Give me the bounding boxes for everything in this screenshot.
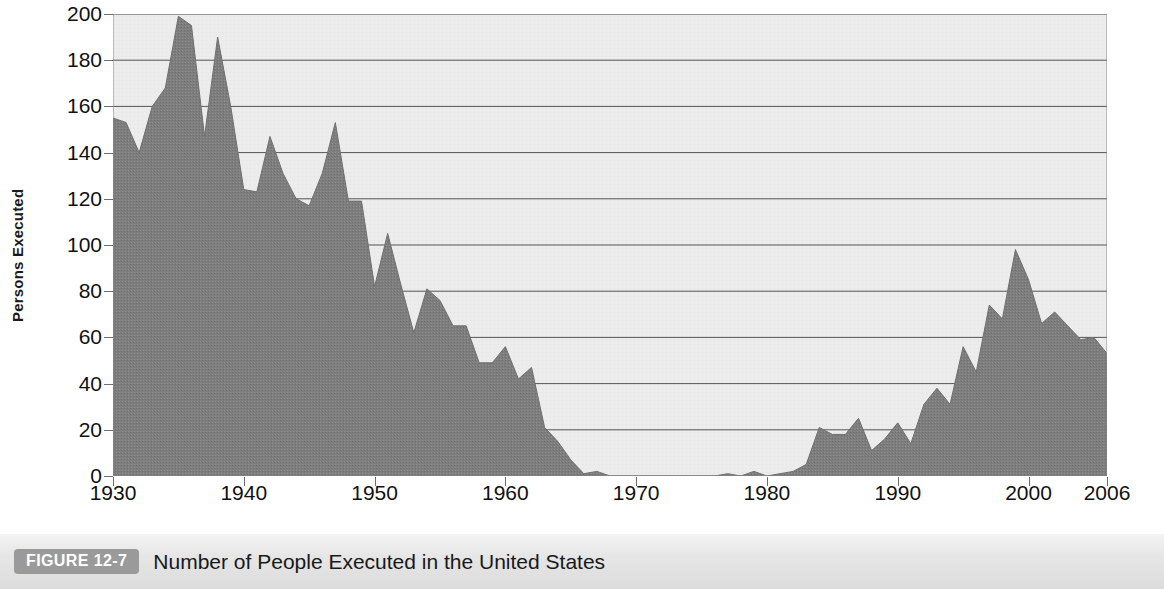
x-tick-mark: [113, 477, 114, 486]
figure-caption-bar: FIGURE 12-7 Number of People Executed in…: [0, 534, 1164, 589]
x-tick-mark: [1029, 477, 1030, 486]
x-tick-mark: [244, 477, 245, 486]
x-tick-label: 2006: [1047, 482, 1164, 503]
chart-area: Persons Executed 02040608010012014016018…: [0, 0, 1164, 515]
figure-12-7: Persons Executed 02040608010012014016018…: [0, 0, 1164, 589]
x-tick-mark: [898, 477, 899, 486]
x-tick-mark: [767, 477, 768, 486]
x-tick-mark: [1107, 477, 1108, 486]
x-tick-mark: [636, 477, 637, 486]
figure-number-badge: FIGURE 12-7: [14, 549, 139, 574]
x-tick-mark: [375, 477, 376, 486]
x-tick-mark: [505, 477, 506, 486]
figure-caption-text: Number of People Executed in the United …: [153, 551, 605, 572]
x-axis-tick-labels: 193019401950196019701980199020002006: [0, 0, 1164, 515]
